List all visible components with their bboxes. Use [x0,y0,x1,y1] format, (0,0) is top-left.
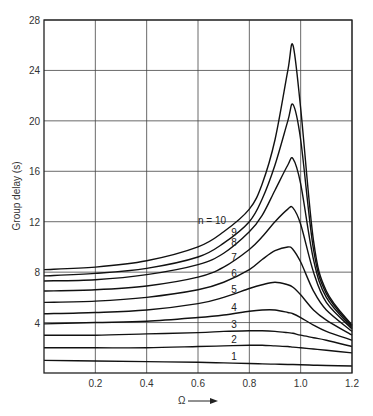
y-tick: 20 [29,116,41,127]
x-axis-arrow-icon [188,398,218,404]
y-tick: 24 [29,65,41,76]
y-axis-label: Group delay (s) [11,162,22,231]
x-tick: 0.4 [140,378,154,389]
curve-label-n-9: 9 [231,227,237,238]
group-delay-chart: 0.20.40.60.81.01.2 481216202428 12345678… [0,0,373,416]
x-tick: 0.8 [242,378,256,389]
curve-label-n-7: 7 [231,252,237,263]
curve-label-n-4: 4 [231,302,237,313]
x-tick-labels: 0.20.40.60.81.01.2 [88,378,359,389]
x-tick: 1.0 [294,378,308,389]
y-tick: 12 [29,217,41,228]
curve-label-n-2: 2 [231,334,237,345]
y-tick: 28 [29,15,41,26]
curve-label-n-5: 5 [231,284,237,295]
x-axis-label: Ω [178,395,186,406]
y-tick: 4 [34,318,40,329]
curve-label-n-3: 3 [231,319,237,330]
curve-label-n-6: 6 [231,268,237,279]
y-tick-labels: 481216202428 [29,15,41,329]
y-tick: 8 [34,267,40,278]
curve-label-n-8: 8 [231,237,237,248]
x-tick: 0.2 [88,378,102,389]
y-tick: 16 [29,166,41,177]
x-tick: 1.2 [345,378,359,389]
x-tick: 0.6 [191,378,205,389]
curve-label-n-10: n = 10 [198,215,227,226]
curve-label-n-1: 1 [231,351,237,362]
